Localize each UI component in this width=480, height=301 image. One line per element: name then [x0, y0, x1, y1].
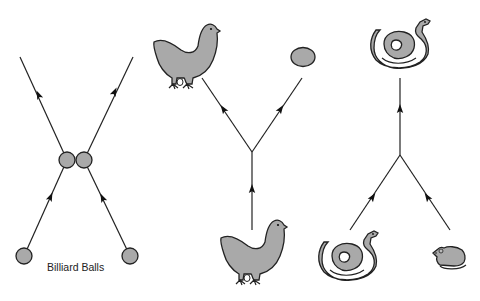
mouse-icon [433, 247, 466, 269]
incoming-trajectory-mouse [400, 155, 450, 230]
interaction-diagram [0, 0, 480, 301]
snake-mouse-panel [319, 19, 466, 280]
outgoing-trajectory-right [84, 57, 133, 160]
billiard-balls-panel [16, 57, 138, 264]
billiard-ball-incoming-right [122, 248, 138, 264]
billiard-balls-label: Billiard Balls [47, 261, 104, 273]
arrow-up-icon [98, 192, 108, 203]
outgoing-trajectory-egg [252, 78, 302, 152]
snake-icon [319, 231, 378, 280]
billiard-ball-incoming-left [16, 248, 32, 264]
incoming-trajectory-right [84, 160, 130, 256]
chicken-icon [154, 24, 220, 89]
snake-icon [371, 19, 430, 68]
outgoing-trajectory-chicken [202, 78, 252, 152]
incoming-trajectory-left [24, 160, 67, 256]
chicken-icon [221, 220, 287, 285]
billiard-ball-collision-right [76, 152, 92, 168]
arrow-up-icon [46, 191, 56, 202]
billiard-ball-collision-left [59, 152, 75, 168]
outgoing-trajectory-left [20, 57, 67, 160]
chicken-egg-panel [154, 24, 315, 285]
incoming-trajectory-snake [350, 155, 400, 230]
egg-icon [291, 48, 315, 67]
